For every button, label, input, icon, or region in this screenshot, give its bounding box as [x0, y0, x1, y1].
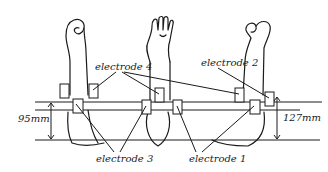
diagram-drawing	[0, 0, 328, 172]
electrode-4-label: electrode 4	[95, 62, 152, 72]
electrode-1-leader-1	[177, 106, 196, 152]
dimension-127mm	[274, 97, 280, 139]
electrode-2-box-right	[265, 92, 274, 106]
electrode-3-label: electrode 3	[96, 154, 153, 164]
right-arm	[212, 22, 270, 147]
dimension-127mm-label: 127mm	[283, 113, 321, 123]
electrode-4-box-left-a	[60, 84, 69, 98]
electrode-2-label: electrode 2	[201, 58, 258, 68]
left-arm	[66, 19, 104, 145]
center-arm	[146, 17, 173, 147]
electrode-4-box-right	[235, 88, 244, 102]
electrode-diagram: electrode 4 electrode 2 electrode 3 elec…	[0, 0, 328, 172]
electrode-1-label: electrode 1	[189, 154, 246, 164]
electrode-3-leader-2	[120, 106, 146, 152]
electrode-1-box-right	[250, 100, 260, 114]
electrode-3-box-center	[142, 100, 151, 114]
dimension-95mm-label: 95mm	[18, 114, 50, 124]
electrode-4-box-left-b	[89, 84, 98, 98]
electrode-4-leader-1	[93, 72, 116, 90]
electrode-4-box-center	[155, 88, 164, 102]
